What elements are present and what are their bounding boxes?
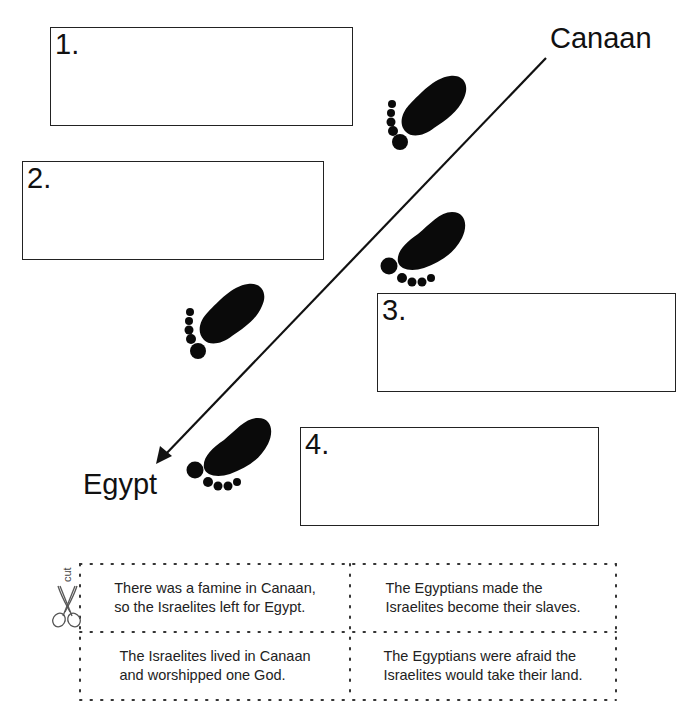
footprint-icon [387,76,467,150]
cut-card-3[interactable]: The Israelites lived in Canaan and worsh… [80,632,350,700]
cut-card-2[interactable]: The Egyptians made the Israelites become… [350,564,616,632]
cut-card-line: Israelites become their slaves. [385,598,580,617]
cut-card-line: The Egyptians made the [385,579,580,598]
cut-card-4[interactable]: The Egyptians were afraid the Israelites… [350,632,616,700]
cut-card-line: The Israelites lived in Canaan [119,647,310,666]
cut-card-line: and worshipped one God. [119,666,310,685]
footprint-icon [381,212,466,287]
cut-label: cut [61,567,73,582]
cut-card-line: so the Israelites left for Egypt. [114,598,316,617]
cut-card-1[interactable]: There was a famine in Canaan, so the Isr… [80,564,350,632]
cut-card-line: There was a famine in Canaan, [114,579,316,598]
cut-card-line: Israelites would take their land. [383,666,582,685]
cut-card-line: The Egyptians were afraid the [383,647,582,666]
scissors-icon [50,586,82,629]
footprint-icon [185,284,265,359]
footprint-icon [187,418,272,491]
journey-arrow-line [164,58,546,456]
